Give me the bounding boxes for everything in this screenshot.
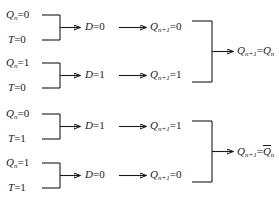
bracket-case-1-2 — [42, 15, 80, 40]
case-1-input-q: Qn=0 — [6, 9, 29, 22]
case-1-d-value: D=0 — [85, 21, 105, 32]
bracket-case-3-4 — [42, 63, 80, 88]
bracket-case-5-6 — [42, 114, 80, 139]
case-2-d-value: D=1 — [85, 69, 105, 80]
case-4-input-t: T=1 — [8, 182, 26, 193]
merge-bracket-top — [192, 21, 233, 82]
case-2-input-t: T=0 — [8, 82, 26, 93]
conclusion-top: Qn+1=Qn — [237, 45, 274, 58]
conclusion-bottom: Qn+1=Qn — [237, 145, 274, 159]
d-to-qnext-arrows — [119, 28, 146, 176]
case-1-q-next: Qn+1=0 — [150, 21, 181, 34]
case-4-input-q: Qn=1 — [6, 157, 29, 170]
case-1-input-t: T=0 — [8, 34, 26, 45]
case-2-input-q: Qn=1 — [6, 57, 29, 70]
case-4-q-next: Qn+1=0 — [150, 169, 181, 182]
case-4-d-value: D=0 — [85, 169, 105, 180]
bracket-case-7-8 — [42, 163, 80, 188]
case-2-q-next: Qn+1=1 — [150, 69, 181, 82]
case-3-input-t: T=1 — [8, 133, 26, 144]
connector-wires — [0, 0, 279, 203]
case-3-input-q: Qn=0 — [6, 108, 29, 121]
merge-bracket-bottom — [192, 121, 233, 182]
flip-flop-conversion-diagram: Qn=0 T=0 D=0 Qn+1=0 Qn=1 T=0 D=1 Qn+1=1 … — [0, 0, 279, 203]
case-3-d-value: D=1 — [85, 120, 105, 131]
case-3-q-next: Qn+1=1 — [150, 120, 181, 133]
